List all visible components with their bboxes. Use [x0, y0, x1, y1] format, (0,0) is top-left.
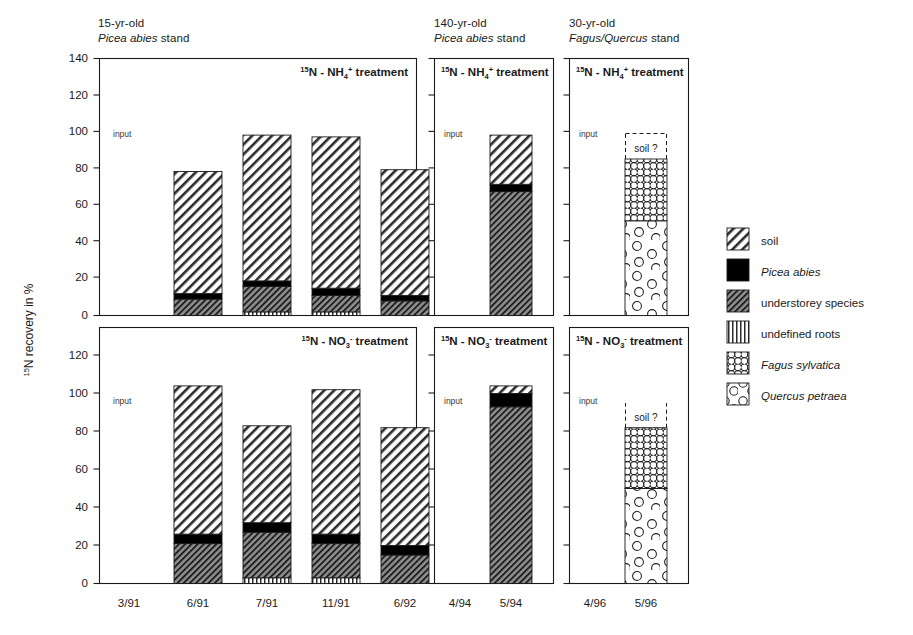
ytick-140: 140 [69, 52, 88, 64]
input-label-140yr-no3: input [444, 396, 463, 406]
panel-30yr-nh4: 15N - NH4+ treatment input soil ? [564, 59, 689, 316]
panel-title-30yr-line1: 30-yr-old [569, 17, 615, 29]
legend-item-picea: Picea abies [727, 259, 821, 281]
ytick-bottom-80: 80 [75, 425, 88, 437]
legend-item-understorey: understorey species [727, 290, 864, 312]
soil-question-label-nh4: soil ? [634, 143, 658, 154]
understorey-swatch-icon [727, 290, 749, 312]
legend-label-roots: undefined roots [761, 328, 841, 340]
panel-title-15yr-stand: stand [157, 32, 189, 44]
panel-30yr-no3: 15N - NO3- treatment input soil ? [564, 328, 689, 584]
legend-label-picea: Picea abies [761, 266, 821, 278]
bar-6-91-nh4 [174, 172, 222, 316]
svg-text:Picea abies stand: Picea abies stand [98, 32, 189, 44]
soil-unknown-region-no3: soil ? [626, 403, 667, 428]
input-label-30yr-nh4: input [579, 129, 598, 139]
input-label-15yr-no3: input [113, 396, 132, 406]
legend-item-fagus: Fagus sylvatica [727, 352, 840, 374]
treatment-label-nh4-30yr: 15N - NH4+ treatment [576, 65, 684, 81]
x-axis-labels: 3/91 6/91 7/91 11/91 6/92 4/94 5/94 4/96… [118, 597, 657, 609]
y-axis-label: 15N recovery in % [22, 283, 36, 376]
svg-text:Picea abies stand: Picea abies stand [434, 32, 525, 44]
panel-title-15yr: 15-yr-old Picea abies stand [98, 17, 189, 44]
ytick-bottom-20: 20 [75, 539, 88, 551]
panel-title-140yr: 140-yr-old Picea abies stand [434, 17, 525, 44]
treatment-label-no3-140yr: 15N - NO3- treatment [441, 334, 548, 350]
panel-15yr-no3: 120 100 80 60 40 20 0 15N - NO3- treatme… [69, 328, 429, 590]
ytick-bottom-120: 120 [69, 349, 88, 361]
treatment-label-no3-15yr: 15N - NO3- treatment [302, 334, 409, 350]
soil-swatch-icon [727, 228, 749, 250]
bars-15yr-no3 [174, 386, 429, 584]
svg-text:Fagus/Quercus stand: Fagus/Quercus stand [569, 32, 680, 44]
legend-label-fagus: Fagus sylvatica [761, 359, 840, 371]
input-label-30yr-no3: input [579, 396, 598, 406]
legend-item-quercus: Quercus petraea [727, 383, 847, 405]
legend: soil Picea abies understorey species und… [727, 228, 864, 405]
bar-5-96-no3: soil ? [625, 403, 667, 584]
bar-7-91-nh4 [243, 135, 291, 315]
ytick-bottom-60: 60 [75, 463, 88, 475]
legend-label-understorey: understorey species [761, 297, 864, 309]
ytick-bottom-0: 0 [82, 577, 88, 589]
panel-15yr-no3-yticks: 120 100 80 60 40 20 0 [69, 349, 100, 589]
panel-title-140yr-line1: 140-yr-old [434, 17, 487, 29]
soil-unknown-region-nh4: soil ? [626, 134, 667, 160]
legend-label-soil: soil [761, 235, 778, 247]
panel-title-30yr: 30-yr-old Fagus/Quercus stand [569, 17, 680, 44]
bar-5-94-nh4 [490, 135, 532, 315]
panel-title-140yr-species: Picea abies [434, 32, 494, 44]
xtick-5-96: 5/96 [635, 597, 657, 609]
legend-label-quercus: Quercus petraea [761, 390, 847, 402]
ytick-100: 100 [69, 125, 88, 137]
panel-140yr-nh4: 15N - NH4+ treatment input [429, 59, 554, 316]
treatment-label-no3-30yr: 15N - NO3- treatment [576, 334, 683, 350]
panel-title-30yr-species: Fagus/Quercus [569, 32, 648, 44]
xtick-11-91: 11/91 [322, 597, 350, 609]
bar-6-91-no3 [174, 386, 222, 584]
bars-15yr-nh4 [174, 135, 429, 315]
panel-15yr-nh4: 140 120 100 80 60 40 20 0 15N - NH4+ tre… [69, 52, 429, 321]
ytick-60: 60 [75, 198, 88, 210]
legend-item-soil: soil [727, 228, 778, 250]
ytick-120: 120 [69, 89, 88, 101]
xtick-6-91: 6/91 [187, 597, 209, 609]
bar-6-92-no3 [381, 428, 429, 584]
xtick-5-94: 5/94 [500, 597, 523, 609]
legend-item-roots: undefined roots [727, 321, 841, 343]
xtick-4-94: 4/94 [449, 597, 472, 609]
ytick-bottom-40: 40 [75, 501, 88, 513]
bar-5-94-no3 [490, 386, 532, 584]
xtick-3-91: 3/91 [118, 597, 140, 609]
ytick-40: 40 [75, 235, 88, 247]
input-label-140yr-nh4: input [444, 129, 463, 139]
xtick-6-92: 6/92 [394, 597, 416, 609]
ytick-0: 0 [82, 309, 88, 321]
picea-swatch-icon [727, 259, 749, 281]
ytick-80: 80 [75, 162, 88, 174]
treatment-label-nh4-140yr: 15N - NH4+ treatment [441, 65, 549, 81]
fagus-swatch-icon [727, 352, 749, 374]
y-axis-label-text: N recovery in % [22, 283, 36, 368]
soil-question-label-no3: soil ? [634, 412, 658, 423]
xtick-7-91: 7/91 [256, 597, 278, 609]
panel-title-30yr-stand: stand [648, 32, 680, 44]
panel-title-15yr-line1: 15-yr-old [98, 17, 144, 29]
panel-title-140yr-stand: stand [493, 32, 525, 44]
bar-7-91-no3 [243, 426, 291, 584]
xtick-4-96: 4/96 [584, 597, 606, 609]
panel-140yr-no3: 15N - NO3- treatment input [429, 328, 554, 584]
panel-title-15yr-species: Picea abies [98, 32, 158, 44]
figure-root: 15N recovery in % 15-yr-old Picea abies … [0, 0, 913, 635]
panel-15yr-nh4-yticks: 140 120 100 80 60 40 20 0 [69, 52, 100, 321]
bar-11-91-no3 [312, 390, 360, 584]
input-label-15yr-nh4: input [113, 129, 132, 139]
svg-text:15N recovery in %: 15N recovery in % [22, 283, 36, 376]
y-axis-label-superscript: 15 [22, 368, 31, 376]
treatment-label-nh4-15yr: 15N - NH4+ treatment [300, 65, 408, 81]
bar-11-91-nh4 [312, 137, 360, 316]
roots-swatch-icon [727, 321, 749, 343]
bar-5-96-nh4: soil ? [625, 134, 667, 316]
ytick-bottom-100: 100 [69, 387, 88, 399]
ytick-20: 20 [75, 271, 88, 283]
